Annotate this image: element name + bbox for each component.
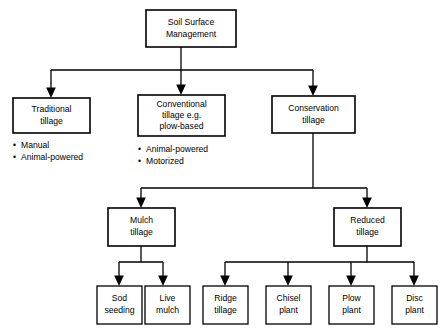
node-label-chisel-plant-line2: plant (279, 305, 298, 315)
arrowhead-live-mulch (158, 276, 168, 287)
node-label-chisel-plant-line1: Chisel (277, 293, 301, 303)
arrowhead-conservation (308, 86, 318, 97)
node-reduced-tillage[interactable]: Reduced tillage (334, 208, 401, 246)
node-conservation-tillage[interactable]: Conservation tillage (272, 96, 355, 133)
node-label-mulch-line1: Mulch (130, 215, 153, 225)
node-plow-plant[interactable]: Plow plant (329, 286, 374, 324)
node-label-root-line1: Soil Surface (168, 17, 215, 27)
arrowhead-plow-plant (346, 276, 356, 287)
node-disc-plant[interactable]: Disc plant (392, 286, 437, 324)
bullet-list-conventional: • Animal-powered • Motorized (138, 144, 208, 166)
bullet-conventional-1: Motorized (146, 156, 184, 166)
bullet-conventional-0: Animal-powered (146, 144, 208, 154)
flowchart-diagram: Soil Surface Management Traditional till… (0, 0, 446, 330)
flowchart-canvas: Soil Surface Management Traditional till… (0, 0, 446, 330)
connector-group-mulch-to-level4 (114, 246, 168, 286)
bullet-glyph-traditional-0: • (13, 140, 16, 150)
arrowhead-mulch (136, 198, 146, 209)
node-conventional-tillage[interactable]: Conventional tillage e.g. plow-based (138, 95, 225, 136)
arrowhead-traditional (46, 88, 56, 99)
node-label-disc-plant-line2: plant (405, 305, 424, 315)
node-label-conventional-line3: plow-based (160, 121, 204, 131)
bullet-glyph-conventional-1: • (138, 156, 141, 166)
bullet-list-traditional: • Manual • Animal-powered (13, 140, 83, 162)
node-traditional-tillage[interactable]: Traditional tillage (13, 98, 90, 133)
arrowhead-conventional (176, 85, 186, 96)
bullet-glyph-traditional-1: • (13, 152, 16, 162)
node-label-conservation-line2: tillage (302, 115, 325, 125)
node-label-plow-plant-line1: Plow (342, 293, 361, 303)
node-label-conventional-line1: Conventional (156, 99, 206, 109)
node-label-conservation-line1: Conservation (288, 103, 339, 113)
node-label-live-mulch-line1: Live (160, 293, 176, 303)
node-label-mulch-line2: tillage (130, 227, 153, 237)
node-label-traditional-line2: tillage (40, 116, 63, 126)
bullet-traditional-0: Manual (21, 140, 49, 150)
node-live-mulch[interactable]: Live mulch (145, 286, 190, 324)
node-chisel-plant[interactable]: Chisel plant (266, 286, 311, 324)
node-label-sod-seeding-line1: Sod (112, 293, 128, 303)
connector-group-reduced-to-level4 (220, 246, 419, 286)
node-label-plow-plant-line2: plant (342, 305, 361, 315)
node-label-ridge-tillage-line1: Ridge (214, 293, 237, 303)
arrowhead-reduced (362, 198, 372, 209)
node-label-disc-plant-line1: Disc (406, 293, 423, 303)
arrowhead-disc-plant (409, 276, 419, 287)
node-soil-surface-management[interactable]: Soil Surface Management (146, 10, 236, 47)
node-label-ridge-tillage-line2: tillage (214, 305, 237, 315)
bullet-glyph-conventional-0: • (138, 144, 141, 154)
node-label-reduced-line1: Reduced (350, 215, 385, 225)
node-label-live-mulch-line2: mulch (156, 305, 179, 315)
node-label-sod-seeding-line2: seeding (104, 305, 134, 315)
node-label-root-line2: Management (166, 29, 217, 39)
node-ridge-tillage[interactable]: Ridge tillage (203, 286, 248, 324)
node-label-reduced-line2: tillage (356, 227, 379, 237)
node-label-traditional-line1: Traditional (32, 104, 72, 114)
node-label-conventional-line2: tillage e.g. (162, 110, 201, 120)
arrowhead-sod-seeding (114, 276, 124, 287)
connector-group-root-to-level2 (46, 47, 318, 98)
arrowhead-ridge-tillage (220, 276, 230, 287)
arrowhead-chisel-plant (283, 276, 293, 287)
node-mulch-tillage[interactable]: Mulch tillage (108, 208, 175, 246)
bullet-traditional-1: Animal-powered (21, 152, 83, 162)
node-sod-seeding[interactable]: Sod seeding (97, 286, 142, 324)
